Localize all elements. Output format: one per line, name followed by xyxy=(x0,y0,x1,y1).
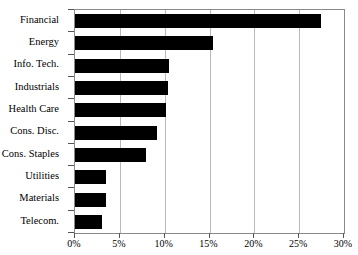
bar-health-care xyxy=(75,103,166,117)
x-axis-labels: 0%5%10%15%20%25%30% xyxy=(74,238,345,254)
x-axis-label-1: 5% xyxy=(112,238,125,250)
bar-cons-staples xyxy=(75,148,146,162)
bar-industrials xyxy=(75,81,168,95)
bar-row xyxy=(75,166,344,188)
x-axis-label-5: 25% xyxy=(289,238,307,250)
bar-row xyxy=(75,99,344,121)
bar-cons-disc xyxy=(75,126,157,140)
category-label-5: Cons. Disc. xyxy=(0,120,64,142)
category-label-3: Industrials xyxy=(0,76,64,98)
bar-energy xyxy=(75,36,213,50)
x-axis-label-6: 30% xyxy=(334,238,352,250)
bar-row xyxy=(75,77,344,99)
category-label-text: Industrials xyxy=(15,82,59,93)
x-axis-label-3: 15% xyxy=(199,238,217,250)
category-label-6: Cons. Staples xyxy=(0,143,64,165)
bar-chart: FinancialEnergyInfo. Tech.IndustrialsHea… xyxy=(0,0,358,255)
category-label-8: Materials xyxy=(0,187,64,209)
category-axis: FinancialEnergyInfo. Tech.IndustrialsHea… xyxy=(0,9,64,232)
category-label-1: Energy xyxy=(0,31,64,53)
x-axis-label-2: 10% xyxy=(154,238,172,250)
category-label-0: Financial xyxy=(0,9,64,31)
category-label-text: Financial xyxy=(20,15,59,26)
category-label-text: Health Care xyxy=(9,104,59,115)
bar-row xyxy=(75,188,344,210)
category-label-2: Info. Tech. xyxy=(0,54,64,76)
bar-row xyxy=(75,32,344,54)
bar-row xyxy=(75,55,344,77)
bar-row xyxy=(75,211,344,233)
category-label-4: Health Care xyxy=(0,98,64,120)
category-label-9: Telecom. xyxy=(0,210,64,232)
category-label-text: Info. Tech. xyxy=(14,59,59,70)
bar-materials xyxy=(75,193,106,207)
x-axis-label-0: 0% xyxy=(67,238,80,250)
category-label-text: Cons. Disc. xyxy=(10,126,59,137)
bar-row xyxy=(75,121,344,143)
x-axis-label-4: 20% xyxy=(244,238,262,250)
bar-utilities xyxy=(75,170,106,184)
category-label-text: Energy xyxy=(29,37,59,48)
bars-layer xyxy=(75,10,344,233)
category-label-7: Utilities xyxy=(0,165,64,187)
category-label-text: Telecom. xyxy=(20,216,59,227)
bar-telecom xyxy=(75,215,102,229)
bar-row xyxy=(75,10,344,32)
bar-financial xyxy=(75,14,321,28)
plot-area xyxy=(74,9,345,234)
category-label-text: Cons. Staples xyxy=(2,149,59,160)
category-label-text: Utilities xyxy=(25,171,59,182)
bar-info-tech xyxy=(75,59,169,73)
bar-row xyxy=(75,144,344,166)
category-label-text: Materials xyxy=(19,193,59,204)
